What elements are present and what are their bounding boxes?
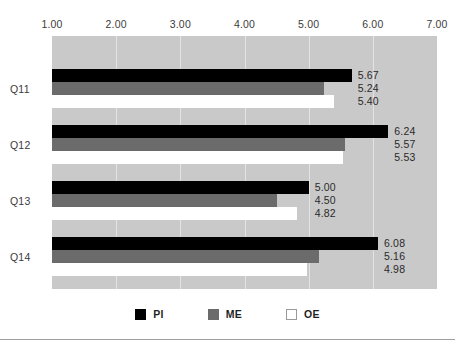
bar-q12-pi bbox=[52, 125, 388, 138]
x-tick-label-1: 2.00 bbox=[106, 18, 127, 30]
legend-swatch-oe-icon bbox=[286, 309, 297, 320]
bar-q13-me bbox=[52, 194, 277, 207]
category-label-q14: Q14 bbox=[10, 251, 48, 263]
x-tick-label-4: 5.00 bbox=[298, 18, 319, 30]
x-tick-label-6: 7.00 bbox=[426, 18, 447, 30]
x-tick-label-0: 1.00 bbox=[41, 18, 62, 30]
x-axis-tick-labels: 1.002.003.004.005.006.007.00 bbox=[0, 18, 455, 34]
legend-label-oe: OE bbox=[304, 308, 320, 320]
legend-item-me[interactable]: ME bbox=[208, 308, 242, 320]
chart-legend: PIMEOE bbox=[0, 304, 455, 324]
value-label-q13-pi: 5.00 bbox=[315, 181, 336, 193]
value-label-q14-oe: 4.98 bbox=[384, 263, 405, 275]
x-tick-label-5: 6.00 bbox=[362, 18, 383, 30]
bar-q11-oe bbox=[52, 95, 334, 108]
bar-q13-pi bbox=[52, 181, 309, 194]
bar-q12-oe bbox=[52, 151, 343, 164]
value-label-q11-me: 5.24 bbox=[358, 82, 379, 94]
value-label-q12-pi: 6.24 bbox=[394, 125, 415, 137]
x-tick-label-2: 3.00 bbox=[170, 18, 191, 30]
bar-q13-oe bbox=[52, 207, 297, 220]
bar-q14-me bbox=[52, 250, 319, 263]
value-label-q12-oe: 5.53 bbox=[394, 151, 415, 163]
bottom-divider bbox=[0, 339, 455, 340]
x-tick-label-3: 4.00 bbox=[234, 18, 255, 30]
legend-swatch-pi-icon bbox=[135, 309, 146, 320]
value-label-q13-oe: 4.82 bbox=[315, 207, 336, 219]
value-label-q13-me: 4.50 bbox=[315, 194, 336, 206]
category-label-q11: Q11 bbox=[10, 83, 48, 95]
legend-item-oe[interactable]: OE bbox=[286, 308, 320, 320]
bar-q11-pi bbox=[52, 69, 352, 82]
legend-swatch-me-icon bbox=[208, 309, 219, 320]
category-label-q12: Q12 bbox=[10, 139, 48, 151]
value-label-q11-pi: 5.67 bbox=[358, 69, 379, 81]
legend-label-me: ME bbox=[226, 308, 242, 320]
bar-q11-me bbox=[52, 82, 324, 95]
legend-item-pi[interactable]: PI bbox=[135, 308, 164, 320]
value-label-q11-oe: 5.40 bbox=[358, 95, 379, 107]
bar-chart: 1.002.003.004.005.006.007.00 Q11Q12Q13Q1… bbox=[0, 0, 455, 348]
bar-q14-pi bbox=[52, 237, 378, 250]
value-label-q14-pi: 6.08 bbox=[384, 237, 405, 249]
value-label-q12-me: 5.57 bbox=[394, 138, 415, 150]
category-label-q13: Q13 bbox=[10, 195, 48, 207]
plot-area bbox=[52, 36, 437, 289]
bar-q12-me bbox=[52, 138, 345, 151]
bar-q14-oe bbox=[52, 263, 307, 276]
legend-label-pi: PI bbox=[153, 308, 164, 320]
value-label-q14-me: 5.16 bbox=[384, 250, 405, 262]
